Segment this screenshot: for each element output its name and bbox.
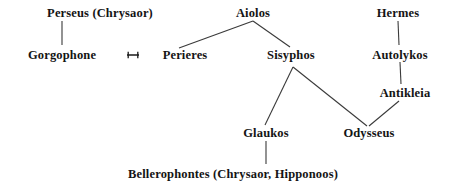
node-bellerophontes: Bellerophontes (Chrysaor, Hipponoos) — [128, 168, 338, 181]
node-perseus: Perseus (Chrysaor) — [47, 7, 153, 20]
genealogy-diagram: Perseus (Chrysaor) Aiolos Hermes Gorgoph… — [0, 0, 459, 190]
node-autolykos: Autolykos — [372, 49, 428, 62]
marriage-symbol-icon — [126, 51, 140, 60]
node-glaukos: Glaukos — [243, 127, 289, 140]
node-gorgophone: Gorgophone — [28, 49, 96, 62]
node-aiolos: Aiolos — [236, 7, 270, 20]
node-hermes: Hermes — [377, 7, 420, 20]
node-sisyphos: Sisyphos — [267, 49, 315, 62]
edge-antikleia-odysseus — [369, 101, 399, 126]
edge-hermes-autolykos — [398, 21, 399, 45]
edge-aiolos-sisyphos — [253, 21, 290, 47]
edge-aiolos-perieres — [179, 21, 253, 48]
edge-autolykos-antikleia — [400, 62, 401, 84]
node-odysseus: Odysseus — [343, 127, 394, 140]
edge-sisyphos-glaukos — [265, 67, 293, 125]
node-antikleia: Antikleia — [380, 87, 431, 100]
node-perieres: Perieres — [163, 49, 208, 62]
edge-sisyphos-odysseus — [293, 67, 367, 126]
